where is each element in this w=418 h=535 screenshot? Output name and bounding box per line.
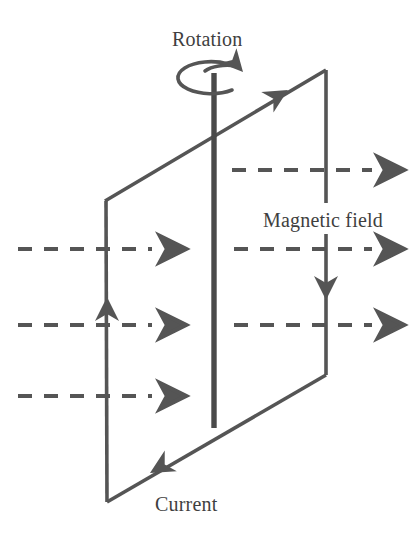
field-line-2 [18, 236, 186, 262]
magnetic-induction-diagram: Rotation Magnetic field Current [0, 0, 418, 535]
field-line-5 [234, 312, 404, 338]
loop-edge-left [106, 201, 107, 502]
field-line-1 [232, 157, 404, 183]
field-line-6 [18, 383, 186, 409]
rotation-label: Rotation [172, 28, 243, 50]
current-label: Current [155, 493, 218, 515]
current-arrow-top [261, 80, 294, 113]
figure-canvas: Rotation Magnetic field Current [0, 0, 418, 535]
field-line-3 [234, 236, 404, 262]
rotation-arrowhead-icon [220, 48, 251, 79]
magnetic-field-label: Magnetic field [263, 209, 383, 232]
magnetic-field-lines-group [18, 157, 404, 409]
